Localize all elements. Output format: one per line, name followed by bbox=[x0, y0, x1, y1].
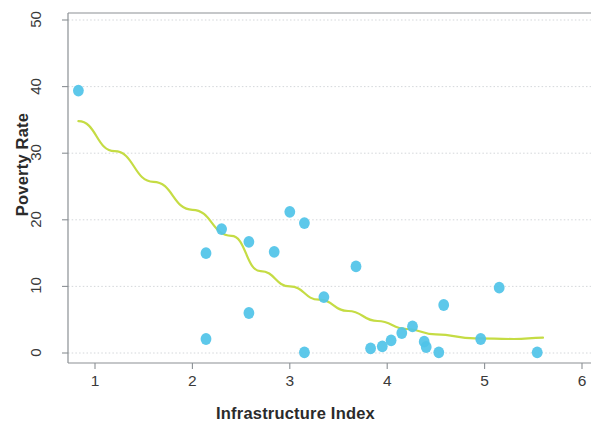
data-point bbox=[494, 282, 505, 294]
data-point bbox=[421, 341, 432, 353]
data-point bbox=[433, 346, 444, 358]
data-point bbox=[73, 85, 84, 97]
data-point bbox=[216, 223, 227, 235]
data-point bbox=[438, 299, 449, 311]
data-point bbox=[244, 307, 255, 319]
data-point bbox=[319, 291, 330, 303]
y-tick-label: 50 bbox=[27, 3, 44, 37]
y-tick-label: 20 bbox=[27, 202, 44, 236]
data-point bbox=[269, 246, 280, 258]
plot-frame bbox=[68, 13, 591, 363]
data-point bbox=[351, 261, 362, 273]
data-point bbox=[284, 206, 295, 218]
data-point bbox=[201, 333, 212, 345]
data-point bbox=[365, 342, 376, 354]
data-point bbox=[475, 333, 486, 345]
y-tick-label: 10 bbox=[27, 269, 44, 303]
x-tick-label: 1 bbox=[80, 372, 110, 390]
y-tick-label: 30 bbox=[27, 136, 44, 170]
x-tick-label: 4 bbox=[372, 372, 402, 390]
data-point bbox=[299, 217, 310, 229]
chart-figure: Poverty Rate Infrastructure Index 010203… bbox=[0, 0, 591, 429]
y-tick-label: 40 bbox=[27, 69, 44, 103]
x-axis-label: Infrastructure Index bbox=[0, 404, 591, 423]
data-points bbox=[73, 85, 543, 359]
trend-curve bbox=[78, 121, 543, 339]
x-tick-label: 2 bbox=[177, 372, 207, 390]
data-point bbox=[407, 321, 418, 333]
x-tick-label: 6 bbox=[567, 372, 591, 390]
data-point bbox=[396, 327, 407, 339]
data-point bbox=[299, 346, 310, 358]
trend-curve-path bbox=[78, 121, 543, 339]
scatter-plot-canvas bbox=[0, 0, 591, 429]
axis-tick-marks bbox=[62, 20, 582, 369]
y-tick-label: 0 bbox=[27, 336, 44, 370]
data-point bbox=[244, 236, 255, 248]
data-point bbox=[201, 247, 212, 259]
data-point bbox=[532, 346, 543, 358]
x-tick-label: 5 bbox=[470, 372, 500, 390]
data-point bbox=[386, 334, 397, 346]
x-tick-label: 3 bbox=[275, 372, 305, 390]
